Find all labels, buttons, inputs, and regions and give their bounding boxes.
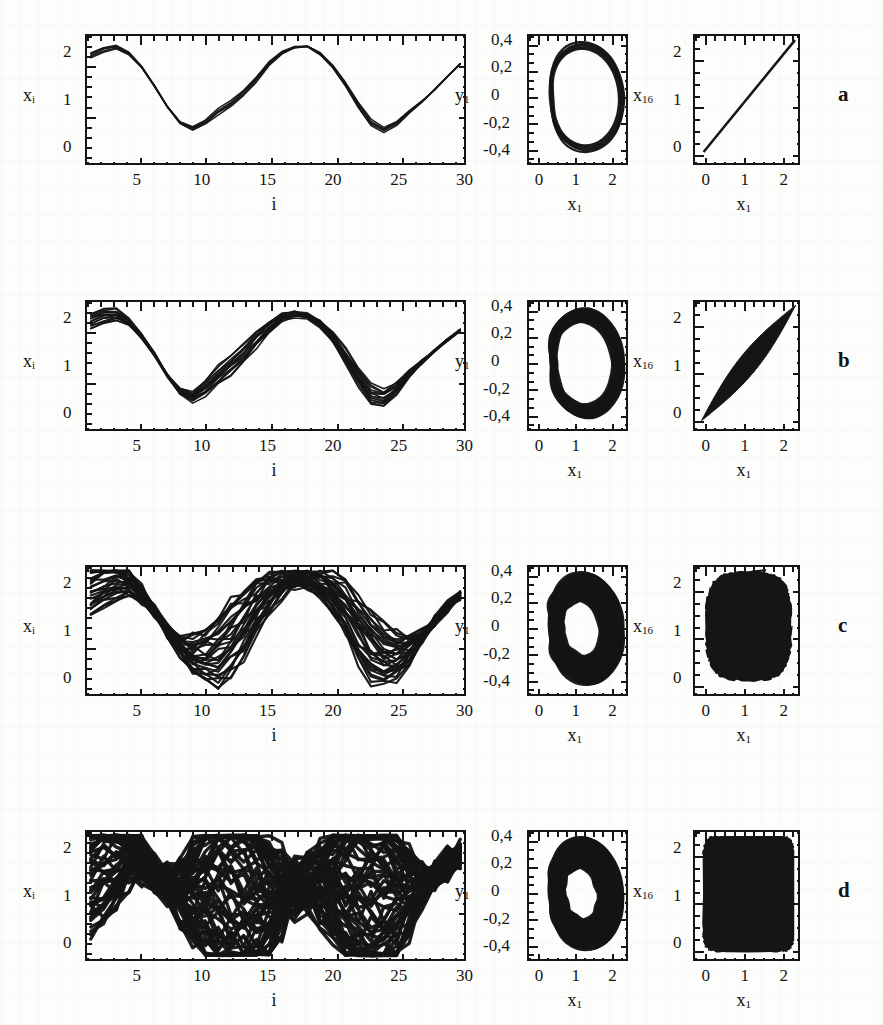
ts-x-tick-label: 25 xyxy=(390,967,407,984)
sync-x-tick-label: 2 xyxy=(779,171,788,188)
ts-x-axis-label: i xyxy=(272,195,277,213)
ts-x-axis-label: i xyxy=(272,461,277,479)
phase-portrait-frame xyxy=(527,565,628,696)
sync-y-tick-label: 0 xyxy=(673,669,682,686)
sync-x-tick-label: 1 xyxy=(741,967,750,984)
ts-y-tick-label: 2 xyxy=(63,574,72,591)
sync-x-tick-label: 0 xyxy=(702,437,711,454)
phase-y-tick-label: 0,2 xyxy=(491,589,512,606)
ts-y-tick-label: 2 xyxy=(63,309,72,326)
ts-x-tick-label: 10 xyxy=(193,702,210,719)
sync-x-tick-label: 1 xyxy=(741,437,750,454)
phase-x-tick-label: 2 xyxy=(608,171,617,188)
sync-y-tick-label: 1 xyxy=(673,887,682,904)
sync-x-tick-label: 2 xyxy=(779,437,788,454)
phase-portrait-curve xyxy=(529,567,626,694)
ts-x-tick-label: 10 xyxy=(193,171,210,188)
sync-plot-points xyxy=(695,832,798,959)
sync-x-tick-label: 1 xyxy=(741,171,750,188)
phase-portrait-curve xyxy=(529,302,626,429)
ts-y-tick-label: 0 xyxy=(63,934,72,951)
phase-y-tick-label: -0,4 xyxy=(483,672,510,689)
phase-y-axis-label: y1 xyxy=(455,617,470,636)
phase-y-axis-label: y1 xyxy=(455,882,470,901)
sync-y-axis-label: x16 xyxy=(633,86,653,105)
phase-x-tick-label: 1 xyxy=(572,437,581,454)
ts-y-tick-label: 0 xyxy=(63,669,72,686)
sync-x-axis-label: x1 xyxy=(737,461,752,480)
ts-x-tick-label: 20 xyxy=(325,967,342,984)
row-panel-label-b: b xyxy=(838,350,850,371)
sync-y-axis-label: x16 xyxy=(633,617,653,636)
sync-plot-points xyxy=(695,567,798,694)
phase-y-tick-label: 0,2 xyxy=(491,854,512,871)
row-panel-label-c: c xyxy=(838,615,847,636)
ts-x-tick-label: 20 xyxy=(325,171,342,188)
phase-portrait-frame xyxy=(527,34,628,165)
timeseries-plot-frame xyxy=(85,300,466,431)
phase-x-tick-label: 1 xyxy=(572,702,581,719)
phase-y-tick-label: 0,4 xyxy=(491,827,512,844)
phase-x-axis-label: x1 xyxy=(568,726,583,745)
timeseries-curves xyxy=(87,302,464,429)
phase-x-tick-label: 0 xyxy=(535,967,544,984)
ts-y-tick-label: 0 xyxy=(63,404,72,421)
ts-x-tick-label: 5 xyxy=(133,437,142,454)
ts-x-tick-label: 25 xyxy=(390,171,407,188)
sync-x-axis-label: x1 xyxy=(737,991,752,1010)
timeseries-curves xyxy=(87,567,464,694)
ts-y-tick-label: 1 xyxy=(63,91,72,108)
phase-y-tick-label: 0,4 xyxy=(491,31,512,48)
phase-x-axis-label: x1 xyxy=(568,991,583,1010)
phase-y-tick-label: 0 xyxy=(491,882,500,899)
phase-x-tick-label: 2 xyxy=(608,702,617,719)
sync-y-tick-label: 1 xyxy=(673,91,682,108)
phase-y-tick-label: 0,4 xyxy=(491,297,512,314)
phase-x-tick-label: 1 xyxy=(572,171,581,188)
ts-y-axis-label: xi xyxy=(23,882,35,901)
sync-plot-points xyxy=(695,36,798,163)
ts-y-tick-label: 1 xyxy=(63,622,72,639)
phase-y-tick-label: 0,4 xyxy=(491,562,512,579)
phase-portrait-curve xyxy=(529,832,626,959)
ts-x-tick-label: 5 xyxy=(133,967,142,984)
ts-x-axis-label: i xyxy=(272,991,277,1009)
ts-x-tick-label: 5 xyxy=(133,171,142,188)
sync-y-tick-label: 0 xyxy=(673,404,682,421)
phase-x-tick-label: 0 xyxy=(535,702,544,719)
phase-y-tick-label: 0 xyxy=(491,352,500,369)
sync-plot-frame xyxy=(693,300,800,431)
sync-y-axis-label: x16 xyxy=(633,882,653,901)
sync-y-tick-label: 1 xyxy=(673,622,682,639)
timeseries-plot-frame xyxy=(85,34,466,165)
ts-x-tick-label: 15 xyxy=(259,171,276,188)
phase-y-tick-label: -0,2 xyxy=(483,380,510,397)
phase-portrait-curve xyxy=(529,36,626,163)
phase-y-tick-label: -0,2 xyxy=(483,645,510,662)
sync-x-tick-label: 0 xyxy=(702,702,711,719)
phase-x-axis-label: x1 xyxy=(568,195,583,214)
ts-y-axis-label: xi xyxy=(23,86,35,105)
sync-y-tick-label: 2 xyxy=(673,309,682,326)
ts-y-tick-label: 2 xyxy=(63,43,72,60)
ts-x-tick-label: 15 xyxy=(259,967,276,984)
sync-plot-frame xyxy=(693,830,800,961)
ts-y-tick-label: 0 xyxy=(63,138,72,155)
phase-x-tick-label: 1 xyxy=(572,967,581,984)
phase-y-tick-label: -0,4 xyxy=(483,141,510,158)
ts-x-axis-label: i xyxy=(272,726,277,744)
ts-x-tick-label: 20 xyxy=(325,437,342,454)
sync-y-tick-label: 2 xyxy=(673,43,682,60)
ts-x-tick-label: 30 xyxy=(456,171,473,188)
sync-y-tick-label: 0 xyxy=(673,138,682,155)
sync-x-tick-label: 0 xyxy=(702,967,711,984)
ts-x-tick-label: 15 xyxy=(259,437,276,454)
ts-x-tick-label: 15 xyxy=(259,702,276,719)
ts-y-tick-label: 2 xyxy=(63,839,72,856)
phase-y-tick-label: 0,2 xyxy=(491,324,512,341)
ts-x-tick-label: 20 xyxy=(325,702,342,719)
phase-y-tick-label: -0,2 xyxy=(483,910,510,927)
timeseries-curves xyxy=(87,36,464,163)
timeseries-curves xyxy=(87,832,464,959)
sync-plot-frame xyxy=(693,565,800,696)
